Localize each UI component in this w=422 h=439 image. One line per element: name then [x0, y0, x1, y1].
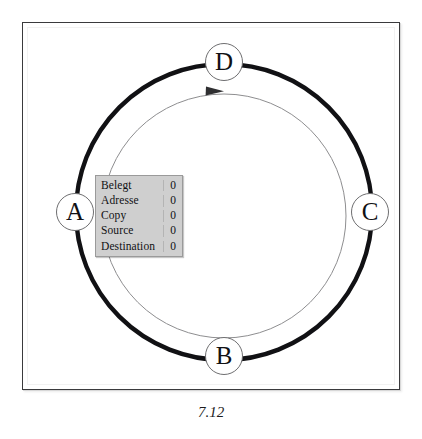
- status-value-belegt: 0: [163, 180, 178, 192]
- node-c-label: C: [362, 199, 379, 224]
- node-a[interactable]: A: [56, 193, 94, 231]
- status-value-adresse: 0: [163, 195, 178, 207]
- status-label-belegt: Belegt: [101, 180, 132, 192]
- status-table: Belegt 0 Adresse 0 Copy 0 Source 0 Desti…: [95, 175, 183, 257]
- status-value-source: 0: [163, 225, 178, 237]
- status-value-destination: 0: [163, 241, 178, 253]
- table-row: Adresse 0: [98, 193, 180, 208]
- status-value-copy: 0: [163, 210, 178, 222]
- table-row: Copy 0: [98, 208, 180, 223]
- node-a-label: A: [66, 199, 84, 224]
- node-b-label: B: [216, 343, 233, 368]
- status-label-source: Source: [101, 225, 134, 237]
- node-d-label: D: [215, 49, 233, 74]
- node-c[interactable]: C: [351, 193, 389, 231]
- table-row: Belegt 0: [98, 178, 180, 193]
- node-d[interactable]: D: [205, 43, 243, 81]
- table-row: Destination 0: [98, 239, 180, 254]
- status-label-adresse: Adresse: [101, 195, 139, 207]
- status-label-destination: Destination: [101, 241, 155, 253]
- status-label-copy: Copy: [101, 210, 126, 222]
- table-row: Source 0: [98, 224, 180, 239]
- node-b[interactable]: B: [205, 337, 243, 375]
- figure-caption: 7.12: [0, 404, 422, 421]
